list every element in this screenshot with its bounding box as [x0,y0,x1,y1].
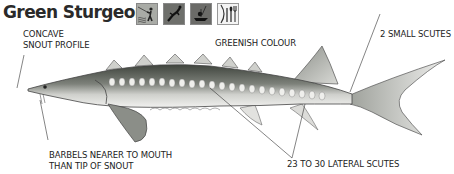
pectoral-fin [108,104,147,142]
snout-annotation: CONCAVE SNOUT PROFILE [23,29,89,50]
colour-annotation: GREENISH COLOUR [215,38,296,49]
eye [43,85,47,89]
snout-annotation-line2: SNOUT PROFILE [23,40,89,51]
sturgeon-illustration [0,0,454,174]
lateral-scutes-annotation: 23 TO 30 LATERAL SCUTES [287,159,399,170]
barbels-annotation-line1: BARBELS NEARER TO MOUTH [49,150,172,161]
caudal-fin [350,60,445,135]
small-scutes-annotation: 2 SMALL SCUTES [380,29,451,40]
ventral-scutes [150,108,220,110]
barbel [43,94,45,103]
dorsal-fin [292,46,338,84]
pelvic-fin [240,105,262,125]
barbels-annotation-line2: THAN TIP OF SNOUT [49,161,172,172]
snout-annotation-line1: CONCAVE [23,29,89,40]
barbels-annotation: BARBELS NEARER TO MOUTH THAN TIP OF SNOU… [49,150,172,171]
